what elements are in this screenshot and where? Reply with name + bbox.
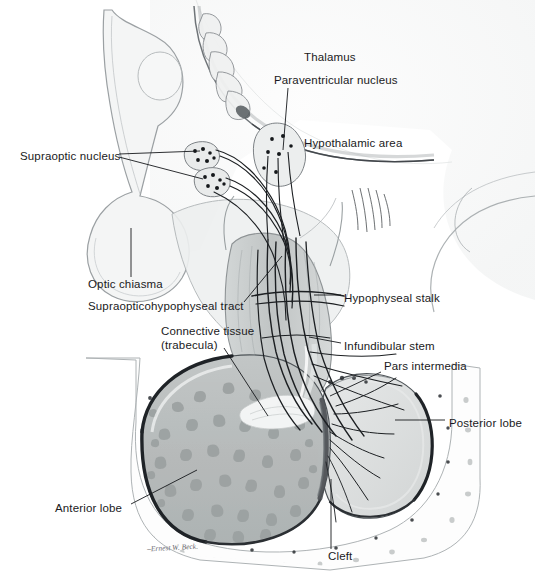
anterior-lobe-body [142,355,331,544]
label-thalamus: Thalamus [304,51,356,64]
label-connective-tissue: Connective tissue [161,325,254,338]
label-supraoptic-nucleus: Supraoptic nucleus [20,150,121,163]
label-hypophyseal-stalk: Hypophyseal stalk [344,292,440,305]
label-optic-chiasma: Optic chiasma [88,278,163,291]
label-anterior-lobe: Anterior lobe [55,502,122,515]
label-supraopticohypophyseal-tract: Supraopticohypophyseal tract [88,300,244,313]
label-cleft: Cleft [328,550,352,563]
supraoptic-nucleus-upper [184,142,219,171]
label-pars-intermedia: Pars intermedia [384,360,467,373]
supraoptic-nucleus-lower [194,168,230,197]
label-connective-tissue-trabecula: (trabecula) [161,339,218,352]
anatomical-figure: Thalamus Paraventricular nucleus Hypotha… [0,0,535,583]
illustration-canvas [0,0,535,583]
label-hypothalamic-area: Hypothalamic area [304,137,402,150]
label-posterior-lobe: Posterior lobe [449,417,522,430]
label-paraventricular-nucleus: Paraventricular nucleus [274,74,398,87]
label-infundibular-stem: Infundibular stem [344,340,435,353]
